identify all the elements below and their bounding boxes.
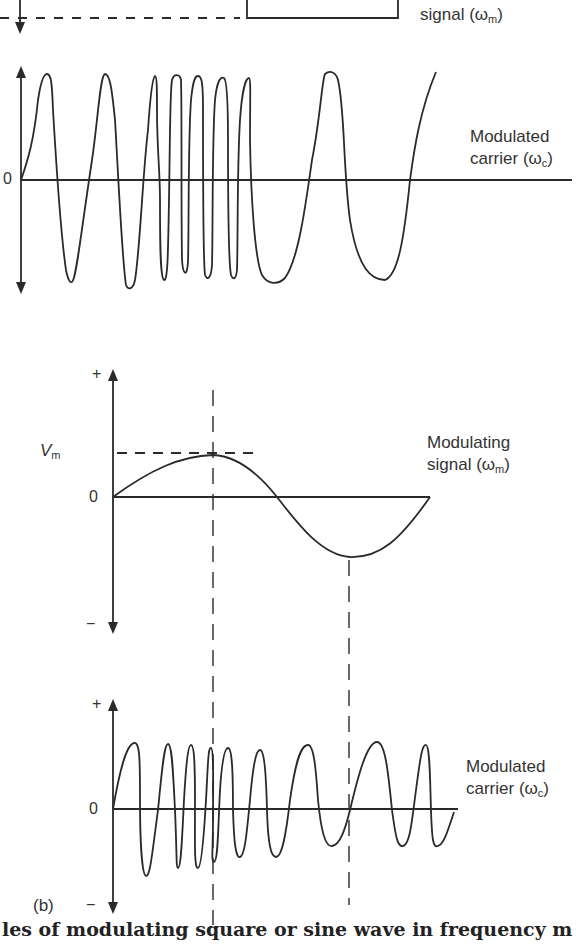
panel-b-signal [108, 369, 430, 634]
plus-label-b-carrier: + [92, 695, 101, 713]
modulating-signal-label-a: signal (ωm) [420, 4, 503, 30]
modulated-carrier-label-b: Modulated carrier (ωc) [466, 756, 549, 804]
minus-label-b-carrier: − [86, 896, 95, 914]
modulating-signal-label-b: Modulating signal (ωm) [427, 432, 510, 480]
panel-tag-b: (b) [33, 895, 54, 917]
minus-label-b: − [86, 615, 95, 633]
zero-label-b-carrier: 0 [89, 800, 98, 818]
panel-b-carrier [108, 699, 458, 914]
square-wave-signal [0, 0, 398, 34]
sine-waveform [113, 455, 430, 557]
panel-a-carrier [16, 66, 572, 294]
vm-label: Vm [40, 440, 61, 466]
zero-label-a: 0 [3, 170, 12, 188]
zero-label-b: 0 [89, 488, 98, 506]
plus-label-b: + [92, 365, 101, 383]
figure-caption: les of modulating square or sine wave in… [2, 918, 572, 940]
modulated-carrier-label-a: Modulated carrier (ωc) [470, 126, 553, 174]
